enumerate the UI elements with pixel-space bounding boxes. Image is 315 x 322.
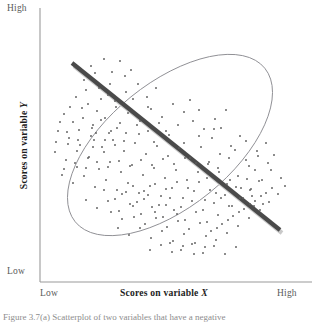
scatter-point xyxy=(195,211,197,213)
scatter-point xyxy=(69,106,71,108)
scatter-point xyxy=(94,186,96,188)
scatter-point xyxy=(270,169,272,171)
scatter-point xyxy=(193,253,195,255)
scatter-point xyxy=(226,183,228,185)
scatter-point xyxy=(198,181,200,183)
scatter-point xyxy=(183,142,185,144)
scatter-point xyxy=(115,106,117,108)
scatter-point xyxy=(120,171,122,173)
scatter-point xyxy=(176,181,178,183)
scatter-point xyxy=(72,182,74,184)
scatter-point xyxy=(100,119,102,121)
scatter-point xyxy=(235,186,237,188)
scatter-point xyxy=(169,242,171,244)
scatter-point xyxy=(234,149,236,151)
scatter-point xyxy=(125,191,127,193)
scatter-point xyxy=(140,159,142,161)
scatter-point xyxy=(127,182,129,184)
scatter-point xyxy=(123,150,125,152)
scatter-point xyxy=(151,206,153,208)
scatter-point xyxy=(149,185,151,187)
scatter-point xyxy=(127,112,129,114)
scatter-point xyxy=(130,69,132,71)
scatter-point xyxy=(132,98,134,100)
scatter-point xyxy=(83,79,85,81)
scatter-point xyxy=(118,160,120,162)
scatter-point xyxy=(239,135,241,137)
scatter-point xyxy=(245,159,247,161)
scatter-point xyxy=(153,167,155,169)
scatter-point xyxy=(121,218,123,220)
scatter-point xyxy=(96,110,98,112)
scatter-point xyxy=(93,139,95,141)
scatter-point xyxy=(183,233,185,235)
scatter-point xyxy=(161,230,163,232)
scatter-point xyxy=(75,96,77,98)
scatter-point xyxy=(183,111,185,113)
scatter-point xyxy=(119,122,121,124)
scatter-point xyxy=(254,200,256,202)
scatter-point xyxy=(134,142,136,144)
scatter-point xyxy=(218,171,220,173)
scatter-point xyxy=(204,246,206,248)
scatter-point xyxy=(259,209,261,211)
scatter-point xyxy=(147,194,149,196)
scatter-point xyxy=(103,58,105,60)
scatter-point xyxy=(177,124,179,126)
y-axis-title: Scores on variable Y xyxy=(18,86,29,206)
scatter-point xyxy=(79,144,81,146)
scatter-point xyxy=(129,203,131,205)
scatter-point xyxy=(240,187,242,189)
scatter-point xyxy=(107,94,109,96)
scatter-point xyxy=(193,190,195,192)
scatter-point xyxy=(198,135,200,137)
scatter-point xyxy=(101,146,103,148)
scatter-point xyxy=(176,213,178,215)
scatter-point xyxy=(158,204,160,206)
scatter-point xyxy=(151,164,153,166)
scatter-point xyxy=(168,134,170,136)
scatter-point xyxy=(175,169,177,171)
scatter-point xyxy=(116,189,118,191)
scatter-point xyxy=(203,128,205,130)
scatter-point xyxy=(182,245,184,247)
scatter-point xyxy=(246,178,248,180)
scatter-point xyxy=(76,166,78,168)
scatter-point xyxy=(165,204,167,206)
scatter-point xyxy=(153,141,155,143)
scatter-point xyxy=(85,167,87,169)
scatter-point xyxy=(136,201,138,203)
scatter-point xyxy=(63,113,65,115)
scatter-point xyxy=(114,144,116,146)
scatter-point xyxy=(171,251,173,253)
scatter-point xyxy=(128,234,130,236)
scatter-point xyxy=(215,192,217,194)
scatter-point xyxy=(180,206,182,208)
scatter-point xyxy=(213,245,215,247)
x-axis-title-variable: X xyxy=(201,287,208,298)
scatter-point xyxy=(210,230,212,232)
scatter-point xyxy=(107,200,109,202)
scatter-point xyxy=(178,147,180,149)
scatter-point xyxy=(154,211,156,213)
scatter-point xyxy=(204,199,206,201)
scatter-point xyxy=(194,242,196,244)
scatter-point xyxy=(85,89,87,91)
scatter-point xyxy=(228,205,230,207)
scatter-point xyxy=(267,162,269,164)
scatter-point xyxy=(67,143,69,145)
scatter-point xyxy=(202,209,204,211)
scatter-point xyxy=(65,159,67,161)
scatter-point xyxy=(108,132,110,134)
scatter-point xyxy=(90,65,92,67)
figure-caption: Figure 3.7(a) Scatterplot of two variabl… xyxy=(3,312,315,322)
scatter-point xyxy=(160,244,162,246)
scatter-point xyxy=(219,153,221,155)
scatter-point xyxy=(221,223,223,225)
y-axis-low-label: Low xyxy=(7,266,25,276)
scatter-point xyxy=(125,132,127,134)
scatter-point xyxy=(280,177,282,179)
scatter-point xyxy=(74,162,76,164)
scatter-point xyxy=(182,197,184,199)
scatter-point xyxy=(132,185,134,187)
